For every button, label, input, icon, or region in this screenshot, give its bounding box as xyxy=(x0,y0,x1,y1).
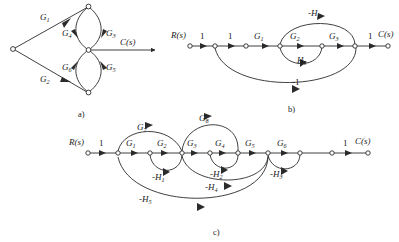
node-b-2 xyxy=(213,44,217,48)
panel-c: R(s) 1 G1 G2 G3 G4 G5 G6 1 C(s) G7 G8 -H… xyxy=(68,113,371,237)
label-c-h4: -H4 xyxy=(205,182,218,193)
caption-b: b) xyxy=(288,104,295,114)
caption-c: c) xyxy=(213,227,220,237)
node-b-3 xyxy=(244,44,248,48)
arrowhead-c-h5 xyxy=(197,203,205,211)
label-c-h2: -H2 xyxy=(210,169,223,180)
panel-b: R(s) 1 1 G1 G2 G3 1 C(s) H1 -H2 -1 b) xyxy=(170,8,394,114)
edge-g1 xyxy=(15,7,88,48)
label-c-g3: G3 xyxy=(187,138,197,149)
label-c-g1: G1 xyxy=(126,138,136,149)
label-b-1b: 1 xyxy=(228,31,233,41)
node-a-bottom xyxy=(86,90,91,95)
label-c-g2: G2 xyxy=(157,138,167,149)
arrowhead-c-h1 xyxy=(163,168,170,176)
arrowhead-c-g2 xyxy=(161,150,168,156)
node-c-2 xyxy=(116,151,120,155)
caption-a: a) xyxy=(78,109,85,119)
label-b-g1: G1 xyxy=(254,31,264,42)
figure-canvas: R(s) G1 G2 G4 G3 G6 G5 C(s) a) xyxy=(0,0,399,242)
arrowhead-b-g1 xyxy=(262,43,269,49)
node-c-output xyxy=(366,151,370,155)
edge-c-h3 xyxy=(268,155,300,169)
node-a-mid xyxy=(86,48,91,53)
arrowhead-c-1a xyxy=(99,150,106,156)
panel-a: R(s) G1 G2 G4 G3 G6 G5 C(s) a) xyxy=(0,4,155,119)
node-c-3 xyxy=(148,151,152,155)
label-b-output: C(s) xyxy=(378,29,394,39)
arrowhead-c-1b xyxy=(345,150,352,156)
label-b-g2: G2 xyxy=(290,31,300,42)
edge-c-h2 xyxy=(210,155,238,168)
node-c-4 xyxy=(180,151,184,155)
label-c-g5: G5 xyxy=(245,138,255,149)
signal-flow-graph-figure: R(s) G1 G2 G4 G3 G6 G5 C(s) a) xyxy=(0,0,399,242)
label-b-input: R(s) xyxy=(170,30,186,40)
label-a-g5: G5 xyxy=(106,62,116,73)
arrowhead-c-g3 xyxy=(191,150,198,156)
label-b-g3: G3 xyxy=(329,31,339,42)
arrowhead-c-g6 xyxy=(281,150,288,156)
arrowhead-b-1a xyxy=(200,43,207,49)
node-b-output xyxy=(386,44,390,48)
arrowhead-g2 xyxy=(60,77,71,82)
label-b-h2: -H2 xyxy=(308,8,321,19)
node-b-4 xyxy=(278,44,282,48)
arrowhead-b-1c xyxy=(369,43,376,49)
edge-g3 xyxy=(89,7,101,49)
arrowhead-b-g2 xyxy=(297,43,304,49)
label-a-g3: G3 xyxy=(106,28,116,39)
label-a-output: C(s) xyxy=(120,37,136,47)
edge-g6 xyxy=(76,51,88,92)
arrowhead-b-g3 xyxy=(337,43,344,49)
node-c-input xyxy=(86,151,90,155)
node-c-9 xyxy=(330,151,334,155)
label-b-1c: 1 xyxy=(368,31,373,41)
label-a-g1: G1 xyxy=(40,12,50,23)
arrowhead-b-1b xyxy=(228,43,235,49)
arrowhead-g6 xyxy=(71,61,78,70)
arrowhead-c-g4 xyxy=(219,150,226,156)
label-c-g4: G4 xyxy=(215,138,225,149)
node-c-7 xyxy=(266,151,270,155)
arrowhead-c-g5 xyxy=(249,150,256,156)
label-c-g6: G6 xyxy=(277,138,288,149)
node-b-input xyxy=(188,44,192,48)
arrowhead-c-h4 xyxy=(224,182,232,190)
label-a-g6: G6 xyxy=(62,62,73,73)
label-c-1a: 1 xyxy=(99,138,104,148)
node-b-6 xyxy=(353,44,357,48)
node-a-input xyxy=(11,47,16,52)
label-c-output: C(s) xyxy=(355,136,371,146)
label-c-input: R(s) xyxy=(68,137,84,147)
node-c-6 xyxy=(236,151,240,155)
node-c-5 xyxy=(208,151,212,155)
label-c-h3: -H3 xyxy=(270,169,283,180)
label-c-1b: 1 xyxy=(343,138,348,148)
edge-g5 xyxy=(89,51,101,92)
label-b-minus1: -1 xyxy=(292,77,300,87)
node-c-8 xyxy=(298,151,302,155)
edge-c-h1 xyxy=(150,155,182,170)
label-c-h5: -H5 xyxy=(139,194,152,205)
label-c-h1: -H1 xyxy=(152,172,165,183)
label-b-h1: H1 xyxy=(296,55,307,66)
label-b-1a: 1 xyxy=(200,31,205,41)
arrowhead-g4 xyxy=(71,29,78,38)
node-b-5 xyxy=(320,44,324,48)
arrowhead-c-g1 xyxy=(131,150,138,156)
label-a-g2: G2 xyxy=(40,74,50,85)
label-a-g4: G4 xyxy=(62,28,72,39)
node-a-top xyxy=(86,4,91,9)
edge-b-minus1 xyxy=(215,48,356,83)
